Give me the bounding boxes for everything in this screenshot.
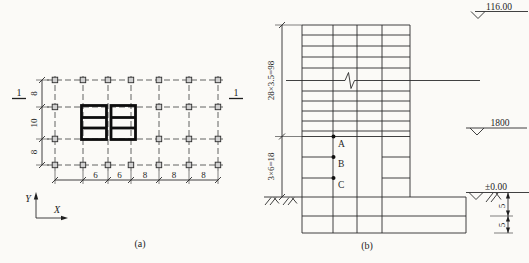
caption-b: (b) <box>361 240 373 252</box>
level-ground: ±0.00 <box>466 182 529 202</box>
plan-dim-8-bottom: 8 <box>29 149 39 154</box>
level-roof: 116.00 <box>471 2 528 19</box>
elevation-floors <box>302 35 410 137</box>
level-roof-value: 116.00 <box>486 2 512 12</box>
level-mid-value: 1800 <box>491 118 510 128</box>
elevation-left-dimension: 28×3.5=98 3×6=18 <box>266 22 302 200</box>
plan-dim-8-top: 8 <box>29 91 39 96</box>
section-mark-right-label: 1 <box>234 87 239 98</box>
points-abc: A B C <box>332 135 346 190</box>
basement-dim-5a: 5 <box>497 203 507 208</box>
caption-a: (a) <box>134 238 145 250</box>
plan-bottom-dimension: 6 6 8 8 8 <box>52 170 221 184</box>
basement-dim-5b: 5 <box>497 222 507 227</box>
plan-dim-6a: 6 <box>93 170 98 180</box>
point-c-label: C <box>338 180 344 190</box>
structural-figure: 8 10 8 6 6 8 8 8 1 1 <box>0 0 529 263</box>
level-mid: 1800 <box>466 118 527 135</box>
plan-left-dimension: 8 10 8 <box>29 77 49 168</box>
plan-dim-8a: 8 <box>143 170 148 180</box>
plan-dim-10: 10 <box>29 118 39 128</box>
plan-dim-8c: 8 <box>201 170 206 180</box>
axis-y-label: Y <box>25 193 32 204</box>
plan-dim-8b: 8 <box>172 170 177 180</box>
section-mark-right: 1 <box>229 87 243 99</box>
point-a-label: A <box>338 139 345 149</box>
basement <box>302 197 466 233</box>
section-mark-left-label: 1 <box>17 87 22 98</box>
ground-left <box>264 197 302 205</box>
break-line <box>286 73 480 89</box>
core-walls <box>82 106 136 140</box>
plan-axes: Y X <box>25 192 68 220</box>
axis-x-label: X <box>53 204 61 215</box>
podium-height-dim: 3×6=18 <box>266 152 276 181</box>
point-b-label: B <box>338 159 344 169</box>
elevation-podium-floors <box>302 157 410 178</box>
section-mark-left: 1 <box>12 87 26 99</box>
level-ground-value: ±0.00 <box>485 182 507 192</box>
plan-dim-6b: 6 <box>117 170 122 180</box>
figure-canvas: 8 10 8 6 6 8 8 8 1 1 <box>0 0 529 263</box>
tower-height-dim: 28×3.5=98 <box>266 60 276 100</box>
